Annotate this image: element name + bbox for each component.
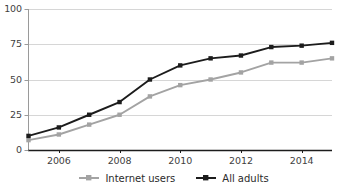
data-point-marker xyxy=(178,63,182,67)
y-tick-label: 75 xyxy=(0,38,22,49)
data-point-marker xyxy=(269,60,273,64)
y-tick-label: 50 xyxy=(0,74,22,85)
y-tick-label: 25 xyxy=(0,109,22,120)
line-chart: 1007550250 20062008201020122014 Internet… xyxy=(0,0,347,188)
data-point-marker xyxy=(299,60,303,64)
legend-item[interactable]: All adults xyxy=(195,173,268,184)
x-tick-label: 2014 xyxy=(282,155,322,166)
data-point-marker xyxy=(178,83,182,87)
data-point-marker xyxy=(330,41,334,45)
series-all-adults xyxy=(26,41,334,138)
data-point-marker xyxy=(57,125,61,129)
data-point-marker xyxy=(117,113,121,117)
line-marker-icon xyxy=(195,173,217,183)
data-point-marker xyxy=(26,134,30,138)
line-marker-icon xyxy=(78,173,100,183)
data-point-marker xyxy=(87,122,91,126)
data-point-marker xyxy=(57,132,61,136)
data-point-marker xyxy=(208,56,212,60)
data-point-marker xyxy=(148,94,152,98)
data-point-marker xyxy=(239,53,243,57)
chart-legend: Internet usersAll adults xyxy=(0,168,347,188)
series-internet-users xyxy=(26,56,334,142)
x-tick-label: 2008 xyxy=(100,155,140,166)
data-point-marker xyxy=(117,100,121,104)
series-layer xyxy=(26,41,334,143)
legend-item[interactable]: Internet users xyxy=(78,173,175,184)
legend-label: All adults xyxy=(222,173,268,184)
data-point-marker xyxy=(330,56,334,60)
y-tick-label: 100 xyxy=(0,3,22,14)
y-tick-label: 0 xyxy=(0,144,22,155)
series-line xyxy=(29,43,333,136)
x-tick-label: 2006 xyxy=(39,155,79,166)
x-tick-label: 2010 xyxy=(160,155,200,166)
series-line xyxy=(29,58,333,140)
data-point-marker xyxy=(269,45,273,49)
legend-label: Internet users xyxy=(105,173,175,184)
data-point-marker xyxy=(208,77,212,81)
data-point-marker xyxy=(148,77,152,81)
data-point-marker xyxy=(26,138,30,142)
data-point-marker xyxy=(87,113,91,117)
x-tick-label: 2012 xyxy=(221,155,261,166)
data-point-marker xyxy=(299,43,303,47)
data-point-marker xyxy=(239,70,243,74)
